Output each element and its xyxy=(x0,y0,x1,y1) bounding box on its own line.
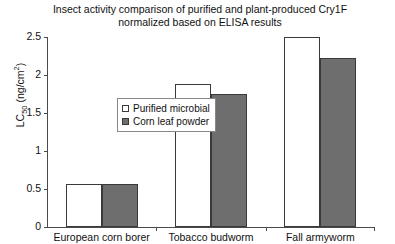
y-axis-tick-label: 2 xyxy=(7,68,41,80)
bar xyxy=(102,184,138,227)
plot-area: 00.511.522.5 European corn borerTobacco … xyxy=(47,37,375,227)
legend-item-corn-leaf-powder: Corn leaf powder xyxy=(122,115,210,128)
bar xyxy=(211,94,247,227)
legend-item-purified-microbial: Purified microbial xyxy=(122,102,210,115)
y-axis-label-unit-post: ) xyxy=(14,63,26,67)
x-axis-category-label: European corn borer xyxy=(47,231,156,243)
y-axis-tick-label: 2.5 xyxy=(7,30,41,42)
y-axis-tick-label: 0 xyxy=(7,220,41,232)
chart-title: Insect activity comparison of purified a… xyxy=(40,3,360,29)
legend-label-corn-leaf-powder: Corn leaf powder xyxy=(133,116,209,127)
x-axis-category-label: Tobacco budworm xyxy=(156,231,265,243)
bar-chart: Insect activity comparison of purified a… xyxy=(0,0,395,244)
y-axis-tick-mark xyxy=(44,113,48,114)
legend-label-purified-microbial: Purified microbial xyxy=(133,103,210,114)
y-axis-tick-mark xyxy=(44,227,48,228)
bar xyxy=(284,37,320,227)
y-axis-tick-label: 0.5 xyxy=(7,182,41,194)
y-axis-tick-label: 1.5 xyxy=(7,106,41,118)
y-axis-tick-mark xyxy=(44,75,48,76)
bar xyxy=(66,184,102,227)
legend: Purified microbial Corn leaf powder xyxy=(117,98,216,132)
x-axis-category-label: Fall armyworm xyxy=(266,231,375,243)
bar xyxy=(320,58,356,227)
y-axis-tick-label: 1 xyxy=(7,144,41,156)
y-axis-line xyxy=(47,37,48,227)
legend-swatch-corn-leaf-powder xyxy=(122,118,129,125)
legend-swatch-purified-microbial xyxy=(122,105,129,112)
x-axis-line xyxy=(47,227,375,228)
y-axis-tick-mark xyxy=(44,37,48,38)
y-axis-tick-mark xyxy=(44,151,48,152)
y-axis-label: LC50 (ng/cm2) xyxy=(12,40,26,150)
y-axis-tick-mark xyxy=(44,189,48,190)
